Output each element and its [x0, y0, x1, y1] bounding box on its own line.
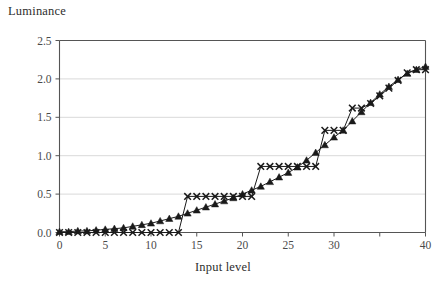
y-tick-label: 1.5 [37, 111, 52, 123]
cross-series [56, 66, 429, 235]
y-tick-label: 2.0 [37, 73, 52, 85]
x-tick-label: 40 [420, 239, 432, 251]
axis-lines [60, 41, 426, 233]
gridlines [60, 41, 426, 195]
x-axis-label: Input level [0, 260, 446, 275]
x-tick-label: 30 [328, 239, 340, 251]
data-series [56, 63, 429, 236]
x-axis-ticks: 05101520253040 [57, 233, 432, 251]
x-tick-label: 5 [102, 239, 108, 251]
x-tick-label: 0 [57, 239, 63, 251]
y-tick-label: 0.5 [37, 188, 52, 200]
plot-area: 0.00.51.01.52.02.5 05101520253040 [0, 0, 446, 288]
x-tick-label: 15 [191, 239, 203, 251]
y-tick-label: 2.5 [37, 35, 52, 47]
triangle-series [56, 63, 429, 235]
luminance-chart: Luminance 0.00.51.01.52.02.5 05101520253… [0, 0, 446, 288]
x-tick-label: 20 [237, 239, 249, 251]
y-axis-ticks: 0.00.51.01.52.02.5 [37, 35, 59, 239]
x-tick-label: 25 [283, 239, 295, 251]
y-tick-label: 1.0 [37, 150, 52, 162]
x-tick-label: 10 [145, 239, 157, 251]
y-tick-label: 0.0 [37, 227, 52, 239]
